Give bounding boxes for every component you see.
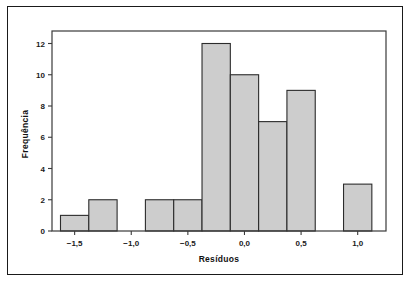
y-axis-ticks: 024681012 [36, 40, 52, 237]
y-tick-label: 8 [41, 102, 46, 111]
x-tick-label: −0,5 [180, 239, 196, 248]
y-tick-label: 2 [41, 196, 46, 205]
y-tick-label: 12 [36, 40, 45, 49]
histogram-bar [230, 75, 258, 231]
histogram-bar [287, 90, 315, 231]
x-axis-title: Resíduos [199, 254, 240, 264]
histogram-bar [259, 122, 287, 231]
y-axis-title: Frequência [20, 110, 30, 158]
y-tick-label: 4 [41, 165, 46, 174]
x-tick-label: −1,5 [67, 239, 83, 248]
histogram-bar [145, 200, 173, 231]
x-tick-label: 0,5 [296, 239, 308, 248]
x-tick-label: −1,0 [123, 239, 139, 248]
bars-group [60, 44, 371, 232]
x-tick-label: 0,0 [239, 239, 251, 248]
x-tick-label: 1,0 [352, 239, 364, 248]
histogram-bar [344, 184, 372, 231]
histogram-bar [60, 215, 88, 231]
histogram-bar [89, 200, 117, 231]
x-axis-ticks: −1,5−1,0−0,50,00,51,0 [67, 231, 364, 248]
histogram-figure: −1,5−1,0−0,50,00,51,0 024681012 Resíduos… [0, 0, 412, 282]
y-tick-label: 6 [41, 133, 46, 142]
y-tick-label: 0 [41, 227, 46, 236]
histogram-bar [202, 44, 230, 232]
histogram-plot: −1,5−1,0−0,50,00,51,0 024681012 Resíduos… [0, 0, 412, 282]
histogram-bar [174, 200, 202, 231]
y-tick-label: 10 [36, 71, 45, 80]
